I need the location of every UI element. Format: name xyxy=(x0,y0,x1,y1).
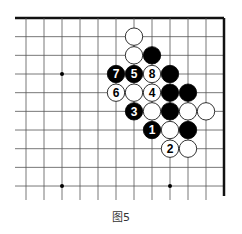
black-stone-disc xyxy=(143,47,160,64)
white-stone-disc xyxy=(125,28,142,45)
stone-white xyxy=(125,28,142,45)
stone-black xyxy=(161,84,178,101)
white-stone-disc xyxy=(179,140,196,157)
stone-black xyxy=(161,65,178,82)
move-number: 1 xyxy=(149,123,156,137)
stone-black xyxy=(179,84,196,101)
move-number: 7 xyxy=(113,67,120,81)
stone-black-1: 1 xyxy=(143,121,160,138)
white-stone-disc xyxy=(143,103,160,120)
black-stone-disc xyxy=(179,121,196,138)
stone-black-5: 5 xyxy=(125,65,142,82)
stone-white xyxy=(143,103,160,120)
move-number: 2 xyxy=(167,142,174,156)
white-stone-disc xyxy=(125,84,142,101)
move-number: 8 xyxy=(149,67,156,81)
move-number: 4 xyxy=(149,86,156,100)
figure-caption: 图5 xyxy=(0,208,242,224)
black-stone-disc xyxy=(161,84,178,101)
go-board-diagram: 75864312 xyxy=(0,0,242,204)
move-number: 6 xyxy=(113,86,120,100)
stone-white xyxy=(125,84,142,101)
stone-white-6: 6 xyxy=(107,84,124,101)
stone-black-3: 3 xyxy=(125,103,142,120)
star-point xyxy=(60,72,64,76)
stone-white xyxy=(161,121,178,138)
stone-white-8: 8 xyxy=(143,65,160,82)
move-number: 3 xyxy=(131,105,138,119)
white-stone-disc xyxy=(197,103,214,120)
black-stone-disc xyxy=(161,65,178,82)
black-stone-disc xyxy=(161,103,178,120)
stone-black xyxy=(161,103,178,120)
stone-white xyxy=(179,140,196,157)
stone-white-4: 4 xyxy=(143,84,160,101)
stone-white-2: 2 xyxy=(161,140,178,157)
stone-white xyxy=(197,103,214,120)
stone-black-7: 7 xyxy=(107,65,124,82)
stone-white xyxy=(125,47,142,64)
black-stone-disc xyxy=(179,84,196,101)
star-point xyxy=(60,184,64,188)
star-point xyxy=(168,184,172,188)
white-stone-disc xyxy=(161,121,178,138)
stone-black xyxy=(179,121,196,138)
move-number: 5 xyxy=(131,67,138,81)
stone-white xyxy=(179,103,196,120)
white-stone-disc xyxy=(125,47,142,64)
white-stone-disc xyxy=(179,103,196,120)
stone-black xyxy=(143,47,160,64)
